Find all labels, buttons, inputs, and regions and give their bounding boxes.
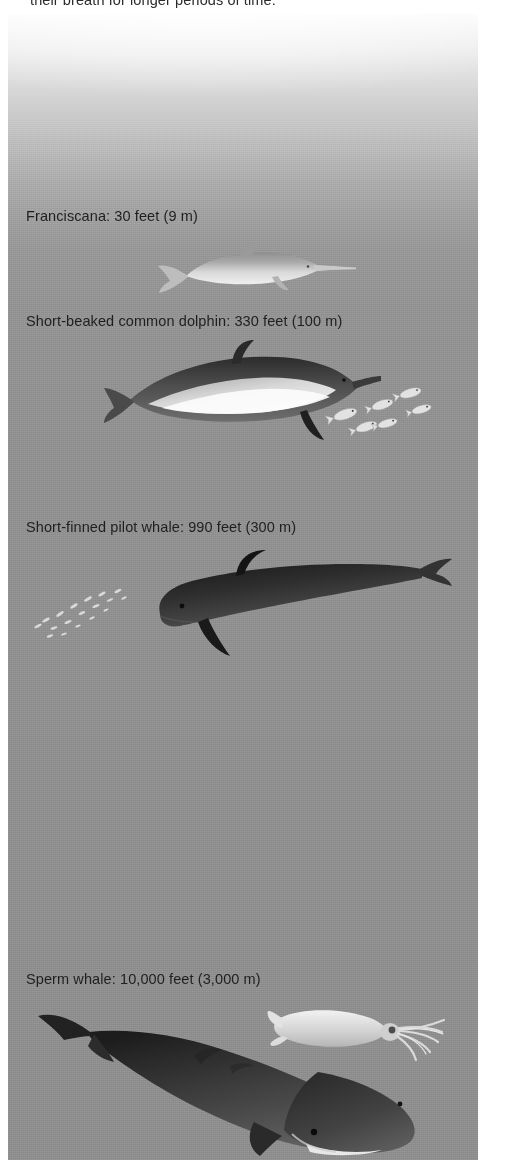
depth-label-sperm-whale: Sperm whale: 10,000 feet (3,000 m)	[26, 972, 261, 988]
fish-school-illustration	[328, 386, 448, 452]
franciscana-dolphin-illustration	[156, 236, 366, 300]
krill-swarm-illustration	[30, 582, 140, 652]
top-caption-text: their breath for longer periods of time.	[30, 0, 276, 8]
infographic-page: their breath for longer periods of time.…	[0, 0, 506, 1169]
ocean-depth-illustration-plate: Franciscana: 30 feet (9 m)	[8, 14, 478, 1160]
squid-illustration	[266, 1002, 446, 1072]
depth-label-franciscana: Franciscana: 30 feet (9 m)	[26, 209, 198, 225]
pilot-whale-illustration	[126, 548, 456, 670]
depth-label-short-finned-pilot-whale: Short-finned pilot whale: 990 feet (300 …	[26, 520, 296, 536]
depth-label-short-beaked-common-dolphin: Short-beaked common dolphin: 330 feet (1…	[26, 314, 342, 330]
ocean-surface-glow	[8, 14, 478, 134]
